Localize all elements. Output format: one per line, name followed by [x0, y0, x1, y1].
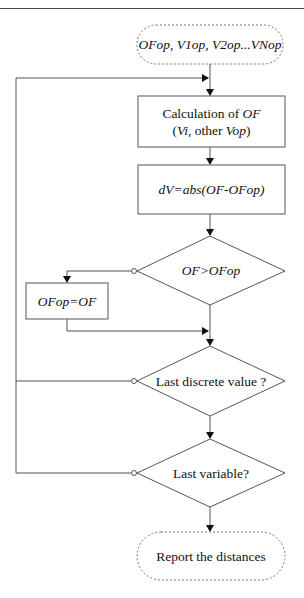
- calc-line1: Calculation of OF: [162, 105, 260, 122]
- decision-variable-text: Last variable?: [173, 465, 249, 482]
- update-text: OFop=OF: [38, 293, 97, 310]
- end-label: Report the distances: [137, 532, 285, 580]
- start-text: OFop, V1op, V2op...VNop: [139, 36, 282, 53]
- decision-discrete-text: Last discrete value ?: [156, 373, 267, 390]
- calc-vi: Vi: [177, 123, 188, 138]
- calc-mid: , other: [188, 123, 226, 138]
- branch-node-of: [132, 269, 137, 274]
- calc-line1-of: OF: [243, 106, 261, 121]
- end-text: Report the distances: [156, 548, 265, 565]
- branch-node-discrete: [132, 379, 137, 384]
- connector-update-merge: [67, 319, 208, 331]
- branch-node-variable: [132, 471, 137, 476]
- connector-decision-update: [67, 271, 131, 282]
- start-label: OFop, V1op, V2op...VNop: [137, 25, 283, 64]
- decision-discrete-label: Last discrete value ?: [137, 346, 285, 416]
- calc-vop: Vop: [226, 123, 246, 138]
- update-label: OFop=OF: [26, 283, 108, 319]
- decision-of-label: OF>OFop: [137, 236, 285, 305]
- calc-line1-text: Calculation of: [162, 106, 242, 121]
- connector-variable-loop: [16, 78, 131, 473]
- calc-paren-close: ): [246, 123, 251, 138]
- calc-line2: (Vi, other Vop): [172, 122, 250, 139]
- calc-label: Calculation of OF (Vi, other Vop): [138, 96, 285, 147]
- decision-variable-label: Last variable?: [137, 439, 285, 507]
- decision-of-text: OF>OFop: [182, 262, 241, 279]
- dv-text: dV=abs(OF-OFop): [159, 181, 265, 198]
- dv-label: dV=abs(OF-OFop): [138, 165, 285, 214]
